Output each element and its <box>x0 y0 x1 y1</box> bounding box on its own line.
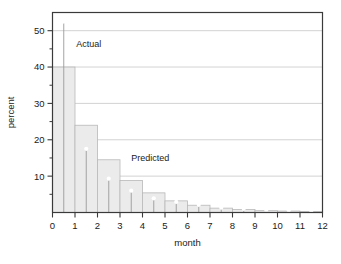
x-axis-tick-label: 11 <box>295 220 305 231</box>
data-point-marker <box>84 147 88 151</box>
y-axis-title: percent <box>5 96 16 128</box>
x-axis-tick-label: 5 <box>162 220 167 231</box>
x-axis-title: month <box>174 237 200 248</box>
x-axis-tick-label: 0 <box>50 220 55 231</box>
data-point-marker <box>174 200 178 204</box>
x-axis: 0123456789101112 <box>50 213 328 231</box>
chart-canvas: 10203040500123456789101112monthpercentAc… <box>0 0 341 264</box>
data-point-marker <box>152 196 156 200</box>
y-axis-tick-label: 10 <box>34 171 45 182</box>
x-axis-tick-label: 4 <box>140 220 145 231</box>
series-annotation-actual: Actual <box>76 39 101 49</box>
data-point-marker <box>107 177 111 181</box>
y-axis-tick-label: 20 <box>34 134 45 145</box>
data-point-marker <box>287 208 291 212</box>
x-axis-tick-label: 3 <box>117 220 122 231</box>
x-axis-tick-label: 2 <box>95 220 100 231</box>
y-axis: 1020304050 <box>34 25 53 194</box>
data-point-marker <box>129 189 133 193</box>
y-axis-tick-label: 30 <box>34 98 45 109</box>
chart-figure: 10203040500123456789101112monthpercentAc… <box>0 0 341 264</box>
data-point-marker <box>197 203 201 207</box>
x-axis-tick-label: 1 <box>72 220 77 231</box>
series-annotation-predicted: Predicted <box>131 153 169 163</box>
data-point-marker <box>264 208 268 212</box>
y-axis-tick-label: 40 <box>34 61 45 72</box>
x-axis-tick-label: 6 <box>185 220 190 231</box>
x-axis-tick-label: 10 <box>272 220 283 231</box>
x-axis-tick-label: 9 <box>252 220 257 231</box>
x-axis-tick-label: 12 <box>317 220 328 231</box>
data-point-marker <box>62 19 66 23</box>
x-axis-tick-label: 7 <box>207 220 212 231</box>
data-point-marker <box>242 207 246 211</box>
x-axis-tick-label: 8 <box>230 220 235 231</box>
data-point-marker <box>219 206 223 210</box>
y-axis-tick-label: 50 <box>34 25 45 36</box>
